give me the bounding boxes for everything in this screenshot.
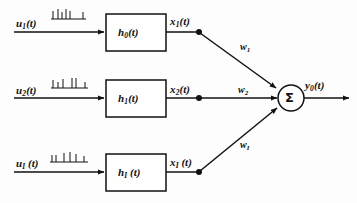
branch-1-spike-train-waveform (51, 9, 86, 19)
output-label: y0(t) (305, 80, 324, 93)
branch-2-output-label: x2(t) (170, 84, 190, 97)
diagram-wiring (0, 0, 357, 203)
branch-3-input-label: uI (t) (16, 158, 38, 171)
branch-3-weight-wire (200, 108, 277, 171)
branch-1-output-label: x1(t) (170, 16, 190, 29)
branch-2-spike-train-waveform (51, 78, 88, 88)
branch-2-input-label: u2(t) (16, 85, 37, 98)
branch-3-filter-label: hI (t) (118, 167, 140, 180)
branch-2-weight-label: w2 (238, 85, 248, 97)
branch-1-weight-wire (200, 33, 276, 88)
summation-sigma-icon: Σ (285, 91, 294, 104)
branch-1-input-label: u1(t) (16, 18, 37, 31)
branch-1-weight-label: w1 (240, 42, 250, 54)
branch-3-spike-train-waveform (50, 152, 88, 162)
branch-1-filter-label: h0(t) (118, 27, 139, 40)
branch-3-weight-label: wI (240, 140, 250, 152)
branch-1-output-wire (166, 29, 202, 35)
branch-3-output-label: xI (t) (170, 157, 192, 170)
branch-3-output-wire (166, 169, 202, 175)
diagram-canvas: u1(t) h0(t) x1(t) w1 u2(t) h1(t) x2(t) w… (0, 0, 357, 203)
branch-2-filter-label: h1(t) (118, 93, 139, 106)
